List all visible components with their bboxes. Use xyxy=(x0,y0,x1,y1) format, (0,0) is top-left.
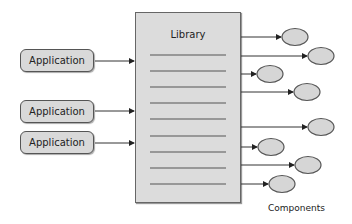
diagram-connectors xyxy=(0,0,352,224)
components-label: Components xyxy=(268,203,325,213)
application-arrows xyxy=(95,61,134,143)
library-slots xyxy=(150,55,226,184)
component-ellipses xyxy=(257,29,334,193)
